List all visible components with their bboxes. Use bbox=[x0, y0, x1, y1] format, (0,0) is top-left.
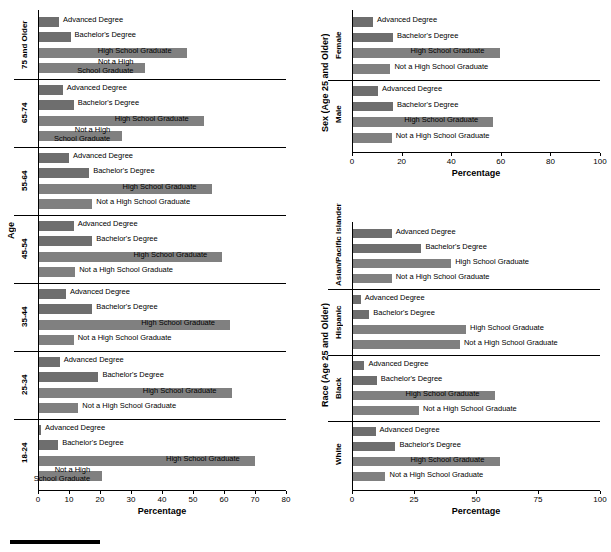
bar-label: Not a HighSchool Graduate bbox=[54, 126, 110, 143]
x-tick-label: 80 bbox=[272, 495, 300, 504]
bar-age-panel-4-1 bbox=[38, 304, 92, 314]
group-separator bbox=[328, 80, 600, 81]
group-label-age-panel-4: 35-44 bbox=[20, 286, 32, 348]
x-tick-label: 40 bbox=[148, 495, 176, 504]
x-tick bbox=[100, 491, 101, 494]
x-tick-label: 30 bbox=[117, 495, 145, 504]
group-separator bbox=[14, 79, 286, 80]
group-separator bbox=[14, 283, 286, 284]
bar-label: Advanced Degree bbox=[380, 426, 440, 435]
footer-rule bbox=[10, 540, 100, 544]
bar-age-panel-5-1 bbox=[38, 372, 98, 382]
y-axis-title-age-panel: Age bbox=[6, 200, 18, 260]
bar-label: Bachelor's Degree bbox=[425, 243, 486, 252]
bar-label: Advanced Degree bbox=[63, 16, 123, 25]
bar-label: Bachelor's Degree bbox=[399, 441, 460, 450]
x-tick-label: 50 bbox=[179, 495, 207, 504]
bar-race-panel-0-1 bbox=[352, 244, 421, 253]
bar-label: Not a High School Graduate bbox=[423, 405, 517, 414]
group-label-race-panel-3: White bbox=[334, 424, 346, 484]
bar-age-panel-4-0 bbox=[38, 289, 66, 299]
bar-label: Not a High School Graduate bbox=[96, 198, 190, 207]
bar-age-panel-3-3 bbox=[38, 267, 75, 277]
bar-label: Not a HighSchool Graduate bbox=[34, 466, 90, 483]
x-tick bbox=[402, 153, 403, 156]
x-tick bbox=[224, 491, 225, 494]
group-separator bbox=[328, 421, 600, 422]
bar-label: High School Graduate bbox=[115, 115, 189, 124]
x-tick-label: 75 bbox=[524, 495, 552, 504]
x-tick-label: 100 bbox=[586, 495, 611, 504]
bar-label: Bachelor's Degree bbox=[75, 31, 136, 40]
group-label-age-panel-0: 75 and Older bbox=[20, 14, 32, 76]
x-tick-label: 0 bbox=[338, 157, 366, 166]
bar-age-panel-4-3 bbox=[38, 335, 74, 345]
group-separator bbox=[14, 215, 286, 216]
group-label-age-panel-2: 55-64 bbox=[20, 150, 32, 212]
bar-label: High School Graduate bbox=[143, 387, 217, 396]
bar-label: Not a High School Graduate bbox=[389, 471, 483, 480]
x-tick bbox=[476, 491, 477, 494]
x-axis-title-race-panel: Percentage bbox=[352, 506, 600, 516]
bar-label: High School Graduate bbox=[166, 455, 240, 464]
bar-label: Not a High School Graduate bbox=[394, 63, 488, 72]
group-label-age-panel-1: 65-74 bbox=[20, 82, 32, 144]
y-axis-title-sex-panel: Sex (Age 25 and Older) bbox=[320, 28, 332, 138]
bar-age-panel-5-0 bbox=[38, 357, 60, 367]
bar-label: Advanced Degree bbox=[368, 360, 428, 369]
bar-sex-panel-1-0 bbox=[352, 86, 378, 96]
x-axis-title-age-panel: Percentage bbox=[38, 506, 286, 516]
bar-race-panel-0-2 bbox=[352, 259, 451, 268]
bar-race-panel-0-0 bbox=[352, 229, 392, 238]
bar-label: Bachelor's Degree bbox=[381, 375, 442, 384]
bar-label: Bachelor's Degree bbox=[397, 101, 458, 110]
bar-label: Not a High School Graduate bbox=[396, 273, 490, 282]
bar-race-panel-0-3 bbox=[352, 274, 392, 283]
bar-label: High School Graduate bbox=[411, 456, 485, 465]
bar-label: High School Graduate bbox=[123, 183, 197, 192]
x-axis-line-sex-panel bbox=[352, 152, 600, 153]
bar-label: Bachelor's Degree bbox=[102, 371, 163, 380]
bar-label: Bachelor's Degree bbox=[78, 99, 139, 108]
bar-age-panel-1-1 bbox=[38, 100, 74, 110]
bar-label: Advanced Degree bbox=[382, 85, 442, 94]
bar-race-panel-3-1 bbox=[352, 442, 395, 451]
x-tick bbox=[352, 153, 353, 156]
bar-age-panel-0-0 bbox=[38, 17, 59, 27]
x-tick-label: 25 bbox=[400, 495, 428, 504]
x-tick bbox=[600, 491, 601, 494]
x-tick bbox=[538, 491, 539, 494]
bar-age-panel-2-3 bbox=[38, 199, 92, 209]
bar-race-panel-1-0 bbox=[352, 295, 361, 304]
x-tick bbox=[286, 491, 287, 494]
x-tick-label: 10 bbox=[55, 495, 83, 504]
bar-race-panel-1-2 bbox=[352, 325, 466, 334]
bar-label: Not a High School Graduate bbox=[78, 334, 172, 343]
group-separator bbox=[14, 147, 286, 148]
x-tick-label: 100 bbox=[586, 157, 611, 166]
bar-sex-panel-0-0 bbox=[352, 17, 373, 27]
x-tick bbox=[414, 491, 415, 494]
bar-race-panel-1-1 bbox=[352, 310, 369, 319]
bar-sex-panel-1-1 bbox=[352, 102, 393, 112]
bar-label: Not a High School Graduate bbox=[79, 266, 173, 275]
bar-label: Advanced Degree bbox=[70, 288, 130, 297]
group-separator bbox=[14, 351, 286, 352]
bar-label: Not a High School Graduate bbox=[82, 402, 176, 411]
y-axis-line-sex-panel bbox=[352, 10, 353, 152]
bar-label: Not a HighSchool Graduate bbox=[77, 58, 133, 75]
bar-race-panel-2-0 bbox=[352, 361, 364, 370]
x-tick-label: 20 bbox=[388, 157, 416, 166]
bar-label: Advanced Degree bbox=[396, 228, 456, 237]
x-axis-title-sex-panel: Percentage bbox=[352, 168, 600, 178]
x-tick bbox=[501, 153, 502, 156]
bar-label: High School Graduate bbox=[98, 47, 172, 56]
x-tick-label: 70 bbox=[241, 495, 269, 504]
group-label-sex-panel-0: Female bbox=[334, 14, 346, 77]
bar-label: High School Graduate bbox=[133, 251, 207, 260]
x-tick bbox=[255, 491, 256, 494]
x-tick bbox=[38, 491, 39, 494]
bar-age-panel-2-1 bbox=[38, 168, 89, 178]
x-tick bbox=[600, 153, 601, 156]
bar-label: Advanced Degree bbox=[365, 294, 425, 303]
